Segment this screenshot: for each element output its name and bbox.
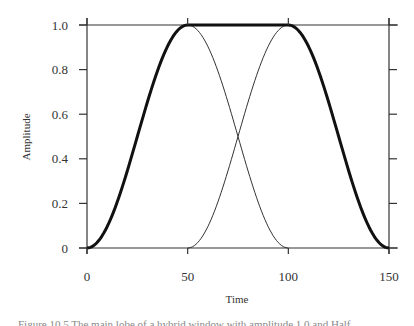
x-tick-label: 0	[84, 269, 91, 284]
y-tick-label: 0.8	[52, 62, 68, 77]
chart: 050100150 00.20.40.60.81.0 Time Amplitud…	[0, 0, 414, 326]
x-tick-label: 100	[279, 269, 299, 284]
y-tick-label: 1.0	[52, 18, 68, 33]
x-axis-ticks: 050100150	[84, 18, 399, 284]
plot-curves	[87, 25, 389, 248]
y-tick-label: 0.2	[52, 196, 68, 211]
caption-text: Figure 10.5 The main lobe of a hybrid wi…	[18, 318, 359, 326]
x-tick-label: 150	[379, 269, 399, 284]
x-axis-title: Time	[226, 293, 249, 305]
y-tick-label: 0.6	[52, 107, 69, 122]
y-tick-label: 0.4	[52, 151, 69, 166]
x-tick-label: 50	[181, 269, 194, 284]
thin-rising-curve	[188, 25, 289, 248]
y-axis-title: Amplitude	[20, 113, 32, 160]
y-axis-ticks: 00.20.40.60.81.0	[52, 18, 397, 256]
y-tick-label: 0	[62, 241, 69, 256]
figure-caption: Figure 10.5 The main lobe of a hybrid wi…	[18, 316, 414, 326]
